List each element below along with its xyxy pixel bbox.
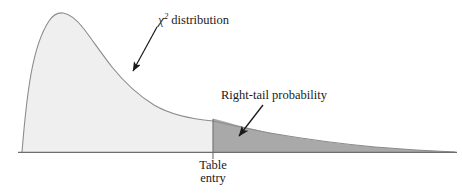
distribution-body-area [22,13,213,152]
chi-square-distribution-figure: χ2 distribution Right-tail probability T… [0,0,462,194]
chi-square-distribution-label: χ2 distribution [158,13,229,27]
chi-distribution-arrow [133,27,157,71]
table-entry-line-2: entry [183,172,243,185]
right-tail-probability-label: Right-tail probability [221,89,327,102]
table-entry-label: Table entry [183,159,243,185]
distribution-word: distribution [168,13,229,27]
